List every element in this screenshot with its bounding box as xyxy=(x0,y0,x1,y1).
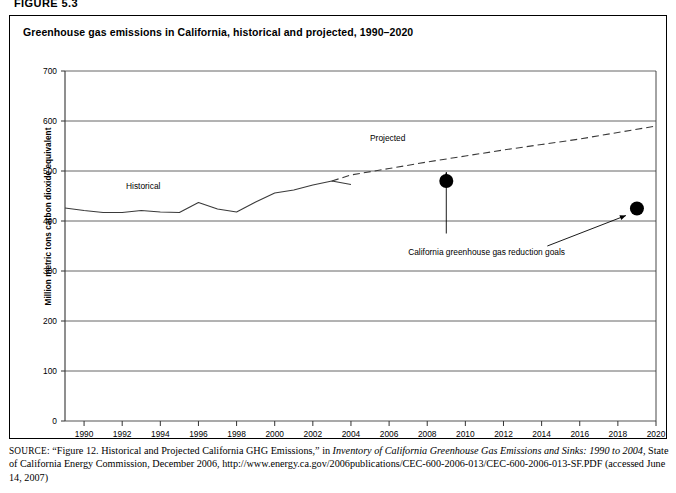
historical-label: Historical xyxy=(126,181,161,191)
x-tick-label-2002: 2002 xyxy=(304,429,323,439)
x-tick-label-2000: 2000 xyxy=(265,429,284,439)
x-tick-label-2008: 2008 xyxy=(418,429,437,439)
x-tick-label-1994: 1994 xyxy=(151,429,170,439)
source-note: SOURCE: “Figure 12. Historical and Proje… xyxy=(9,444,674,484)
x-tick-label-1996: 1996 xyxy=(189,429,208,439)
y-tick-label-200: 200 xyxy=(43,316,57,326)
goals-label: California greenhouse gas reduction goal… xyxy=(408,247,565,257)
goal-marker-2 xyxy=(630,202,644,216)
x-tick-label-2012: 2012 xyxy=(494,429,513,439)
arrow-to-2020-goal-head xyxy=(619,215,626,220)
x-tick-label-2016: 2016 xyxy=(570,429,589,439)
source-line1-pre: “Figure 12. Historical and Projected Cal… xyxy=(50,445,333,456)
figure-page: FIGURE 5.3 Greenhouse gas emissions in C… xyxy=(0,0,676,493)
x-tick-label-1998: 1998 xyxy=(227,429,246,439)
y-tick-label-300: 300 xyxy=(43,266,57,276)
y-tick-label-700: 700 xyxy=(43,66,57,76)
x-tick-label-2018: 2018 xyxy=(609,429,628,439)
x-tick-label-2014: 2014 xyxy=(532,429,551,439)
source-line1-italic: Inventory of California Greenhouse Gas E… xyxy=(333,445,646,456)
y-tick-label-100: 100 xyxy=(43,366,57,376)
y-tick-label-500: 500 xyxy=(43,166,57,176)
x-tick-label-2004: 2004 xyxy=(342,429,361,439)
arrow-to-2020-goal xyxy=(547,216,626,247)
x-tick-label-2010: 2010 xyxy=(456,429,475,439)
y-tick-label-600: 600 xyxy=(43,116,57,126)
series-line-historical xyxy=(65,181,351,213)
projected-label: Projected xyxy=(370,133,406,143)
source-label: SOURCE: xyxy=(9,446,50,456)
y-tick-label-0: 0 xyxy=(52,416,57,426)
goal-marker-1 xyxy=(439,174,453,188)
figure-number: FIGURE 5.3 xyxy=(14,0,78,9)
figure-box: Greenhouse gas emissions in California, … xyxy=(9,15,667,439)
emissions-line-chart: 0100200300400500600700199019921994199619… xyxy=(10,16,668,440)
x-tick-label-2020: 2020 xyxy=(647,429,666,439)
y-tick-label-400: 400 xyxy=(43,216,57,226)
x-tick-label-1992: 1992 xyxy=(113,429,132,439)
x-tick-label-2006: 2006 xyxy=(380,429,399,439)
x-tick-label-1990: 1990 xyxy=(75,429,94,439)
